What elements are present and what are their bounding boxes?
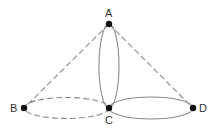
node-c <box>106 105 112 111</box>
edge-c-d-loop <box>109 97 193 119</box>
node-d-label: D <box>199 102 207 114</box>
node-d <box>190 105 196 111</box>
node-c-label: C <box>105 114 113 126</box>
edge-a-b <box>24 24 109 108</box>
node-b-label: B <box>10 102 17 114</box>
graph-diagram: A B C D <box>0 0 214 131</box>
node-a-label: A <box>105 7 113 19</box>
edge-b-c-loop <box>24 98 109 119</box>
edge-a-d <box>109 24 193 108</box>
node-a <box>106 21 112 27</box>
edge-a-c-loop <box>99 24 119 108</box>
node-b <box>21 105 27 111</box>
